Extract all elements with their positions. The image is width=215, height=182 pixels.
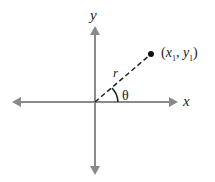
point-marker	[148, 51, 154, 57]
polar-coordinate-diagram	[0, 0, 215, 182]
y-axis-label: y	[90, 8, 97, 23]
y-axis	[90, 26, 100, 175]
angle-label: θ	[122, 89, 129, 103]
point-label-close: )	[193, 45, 198, 60]
point-label: (x1, y1)	[161, 46, 198, 63]
point-comma: ,	[176, 45, 183, 60]
radius-label: r	[113, 66, 118, 79]
x-axis-label: x	[183, 94, 190, 109]
angle-arc	[112, 88, 118, 102]
